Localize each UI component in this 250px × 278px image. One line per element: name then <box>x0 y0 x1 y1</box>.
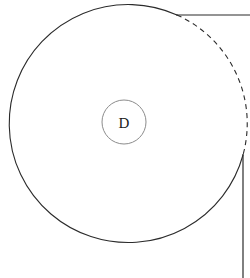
geometry-figure-canvas: D <box>0 0 250 278</box>
disc-label-d: D <box>119 115 130 131</box>
geometry-diagram: D <box>0 0 250 278</box>
background-plate <box>0 0 250 278</box>
